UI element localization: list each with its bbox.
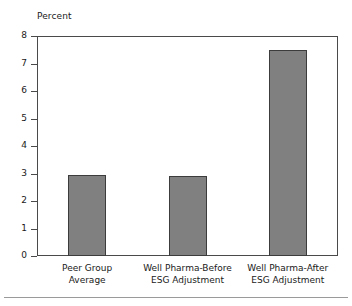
y-axis-tick-label: 8 [21,30,27,41]
y-axis-tick-label: 7 [21,58,27,69]
footer-divider [4,297,348,298]
bar [169,176,207,256]
x-axis-category-label: Well Pharma-Before ESG Adjustment [137,262,237,286]
y-axis-tick-label: 4 [21,140,27,151]
y-axis-tick-label: 3 [21,168,27,179]
y-axis-title: Percent [37,11,72,22]
bar [269,50,307,256]
y-axis-tick: 0 [31,256,37,257]
y-axis-tick-label: 0 [21,250,27,261]
y-axis-tick-label: 1 [21,223,27,234]
y-axis-tick-label: 6 [21,85,27,96]
x-axis-category-label: Well Pharma-After ESG Adjustment [238,262,338,286]
y-axis-tick-label: 5 [21,113,27,124]
bars-group [37,36,338,256]
x-axis-category-label: Peer Group Average [37,262,137,286]
bar-chart-figure: Percent 012345678 Peer Group AverageWell… [0,0,352,306]
bar [68,175,106,256]
y-axis-tick-label: 2 [21,195,27,206]
